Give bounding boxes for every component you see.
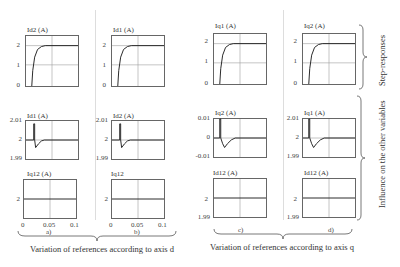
brace-influence — [356, 95, 366, 221]
plot-a3-influence — [23, 179, 77, 219]
plot-c3-influence — [213, 178, 267, 218]
ytick: 2 — [98, 195, 108, 203]
ytick: 2 — [10, 41, 20, 49]
ytick: 2 — [287, 195, 297, 203]
ytick: 2 — [96, 41, 106, 49]
plot-b1-step-response — [111, 35, 165, 87]
ytick: 1 — [10, 61, 20, 69]
ytick: 1.99 — [2, 154, 22, 162]
caption-axis-q: Variation of references according to axi… — [210, 242, 354, 252]
ytick: -0.01 — [190, 152, 210, 160]
plot-a1-ylabel: Id2 (A) — [27, 26, 48, 34]
ytick: 2 — [2, 135, 22, 143]
plot-c2-influence — [213, 118, 267, 158]
ytick: 0 — [287, 79, 297, 87]
plot-c2-ylabel: Iq2 (A) — [215, 109, 236, 117]
plot-c3-ylabel: Id12 (A) — [213, 169, 237, 177]
xtick: 0.1 — [158, 221, 167, 229]
ytick: 1.99 — [88, 154, 108, 162]
brace-axis-d — [17, 230, 177, 242]
ytick: 2 — [88, 135, 108, 143]
plot-d1-ylabel: Iq2 (A) — [304, 22, 325, 30]
ytick: 0 — [10, 81, 20, 89]
plot-b1-ylabel: Id1 (A) — [113, 26, 134, 34]
ytick: 0 — [96, 81, 106, 89]
ytick: 0 — [198, 79, 208, 87]
plot-a2-influence — [25, 120, 79, 160]
label-step-responses: Step-responses — [377, 35, 387, 86]
ytick: 0.01 — [190, 114, 210, 122]
plot-c1-step-response — [213, 33, 267, 85]
ytick: 2.01 — [2, 116, 22, 124]
xtick: 0.1 — [70, 221, 79, 229]
ytick: 1.99 — [279, 213, 299, 221]
plot-a3-ylabel: Iq12 (A) — [27, 170, 51, 178]
xtick: 0 — [109, 221, 113, 229]
ytick: 1 — [198, 57, 208, 65]
plot-b3-influence — [111, 179, 165, 219]
plot-c1-ylabel: Iq1 (A) — [215, 22, 236, 30]
plot-a2-ylabel: Id1 (A) — [27, 112, 48, 120]
ytick: 2 — [198, 37, 208, 45]
plot-b2-ylabel: Id2 (A) — [113, 112, 134, 120]
caption-axis-d: Variation of references according to axi… — [30, 244, 174, 254]
plot-b3-ylabel: Iq12 — [111, 170, 124, 178]
ytick: 1 — [96, 61, 106, 69]
ytick: 2 — [279, 133, 299, 141]
ytick: 2 — [10, 195, 20, 203]
ytick: 1 — [287, 57, 297, 65]
plot-d2-influence — [302, 118, 356, 158]
brace-axis-q — [213, 228, 353, 240]
plot-d2-ylabel: Iq1 (A) — [304, 109, 325, 117]
xtick: 0 — [21, 221, 25, 229]
ytick: 2.01 — [88, 116, 108, 124]
ytick: 2.01 — [279, 114, 299, 122]
brace-step-responses — [358, 24, 368, 90]
ytick: 2 — [198, 195, 208, 203]
plot-d1-step-response — [302, 33, 356, 85]
ytick: 2 — [287, 37, 297, 45]
label-influence-other-variables: Influence on the other variables — [377, 100, 387, 208]
plot-d3-influence — [302, 178, 356, 218]
plot-d3-ylabel: Id12 (A) — [304, 169, 328, 177]
plot-a1-step-response — [25, 35, 79, 87]
ytick: 1.99 — [279, 152, 299, 160]
plot-b2-influence — [111, 120, 165, 160]
ytick: 1.99 — [190, 213, 210, 221]
ytick: 0 — [190, 133, 210, 141]
